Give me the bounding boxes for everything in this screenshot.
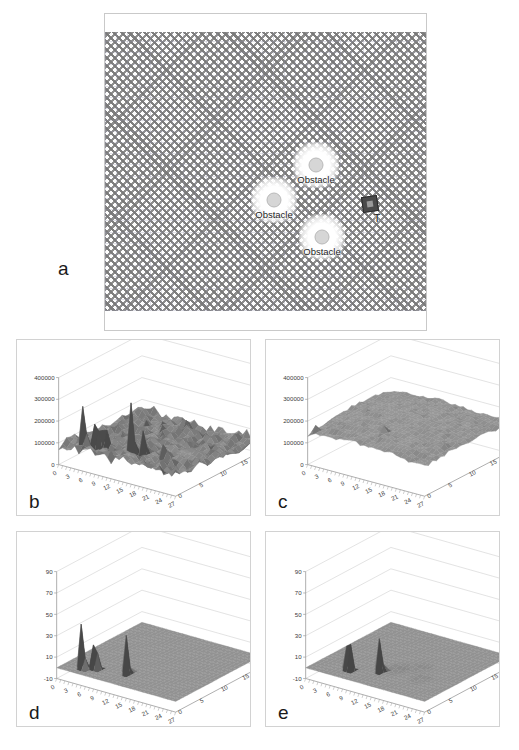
svg-text:100000: 100000 (283, 439, 304, 446)
svg-text:6: 6 (76, 690, 83, 698)
svg-text:9: 9 (89, 694, 96, 702)
svg-text:12: 12 (102, 482, 112, 492)
svg-text:50: 50 (295, 611, 302, 618)
panel-b-svg: 0100000200000300000400000036912151821242… (17, 340, 250, 515)
target-inner-glyph (367, 201, 374, 208)
svg-text:9: 9 (339, 479, 346, 487)
svg-text:27: 27 (416, 499, 426, 509)
svg-text:400000: 400000 (283, 374, 304, 381)
herringbone-texture (105, 32, 426, 311)
obstacle-label: Obstacle (297, 174, 335, 185)
svg-text:30: 30 (295, 632, 302, 639)
svg-text:0: 0 (300, 469, 307, 477)
svg-text:15: 15 (114, 700, 124, 710)
panel-d-svg: -101030507090036912151821242705101520 (17, 532, 250, 726)
svg-text:300000: 300000 (34, 396, 55, 403)
svg-text:90: 90 (295, 568, 302, 575)
svg-text:30: 30 (46, 632, 53, 639)
panel-c-surface-plot: 0100000200000300000400000036912151821242… (265, 339, 500, 516)
obstacle-marker[interactable] (309, 158, 324, 173)
svg-text:400000: 400000 (34, 374, 55, 381)
obstacle-label: Obstacle (255, 209, 293, 220)
svg-text:200000: 200000 (283, 417, 304, 424)
svg-text:100000: 100000 (34, 439, 55, 446)
obstacle-marker[interactable] (267, 193, 282, 208)
svg-text:9: 9 (338, 694, 345, 702)
svg-text:70: 70 (46, 589, 53, 596)
svg-text:27: 27 (167, 499, 177, 509)
svg-text:21: 21 (140, 708, 150, 718)
svg-text:27: 27 (416, 715, 426, 725)
target-square-icon[interactable] (361, 195, 379, 213)
panel-c-svg: 0100000200000300000400000036912151821242… (266, 340, 499, 515)
svg-text:15: 15 (364, 485, 374, 495)
panel-b-surface-plot: 0100000200000300000400000036912151821242… (16, 339, 251, 516)
svg-text:-10: -10 (44, 675, 53, 682)
panel-letter-d: d (29, 702, 40, 724)
svg-text:3: 3 (64, 472, 71, 480)
svg-text:6: 6 (77, 476, 84, 484)
svg-text:12: 12 (350, 697, 360, 707)
svg-text:0: 0 (51, 461, 55, 468)
panel-e-svg: -101030507090036912151821242705101520 (266, 532, 499, 726)
svg-text:24: 24 (154, 496, 164, 506)
obstacle-label: Obstacle (303, 246, 341, 257)
svg-text:0: 0 (298, 682, 305, 690)
svg-text:90: 90 (46, 568, 53, 575)
panel-letter-e: e (278, 702, 289, 724)
svg-text:21: 21 (141, 492, 151, 502)
svg-text:21: 21 (389, 708, 399, 718)
svg-text:18: 18 (128, 489, 138, 499)
svg-text:50: 50 (46, 611, 53, 618)
svg-text:24: 24 (403, 496, 413, 506)
panel-a-map: Obstacle Obstacle Obstacle T (104, 13, 427, 331)
figure-root: Obstacle Obstacle Obstacle T a 010000020… (0, 0, 519, 750)
svg-text:12: 12 (351, 482, 361, 492)
svg-text:0: 0 (300, 461, 304, 468)
svg-text:18: 18 (377, 489, 387, 499)
svg-text:24: 24 (154, 712, 164, 722)
svg-text:18: 18 (376, 704, 386, 714)
svg-text:70: 70 (295, 589, 302, 596)
svg-text:27: 27 (167, 715, 177, 725)
svg-text:10: 10 (295, 653, 302, 660)
svg-text:0: 0 (49, 682, 56, 690)
panel-a-field: Obstacle Obstacle Obstacle T (105, 32, 426, 311)
svg-text:18: 18 (127, 704, 137, 714)
svg-text:12: 12 (101, 697, 111, 707)
svg-text:3: 3 (313, 472, 320, 480)
svg-text:6: 6 (325, 690, 332, 698)
target-label: T (374, 212, 381, 224)
svg-text:-10: -10 (293, 675, 302, 682)
svg-text:3: 3 (312, 686, 319, 694)
svg-text:21: 21 (390, 492, 400, 502)
panel-letter-b: b (29, 491, 40, 513)
svg-text:24: 24 (403, 712, 413, 722)
panel-letter-a: a (58, 258, 69, 280)
svg-text:3: 3 (63, 686, 70, 694)
svg-text:15: 15 (115, 485, 125, 495)
svg-text:6: 6 (326, 476, 333, 484)
svg-text:200000: 200000 (34, 417, 55, 424)
svg-text:0: 0 (51, 469, 58, 477)
svg-text:300000: 300000 (283, 396, 304, 403)
svg-text:9: 9 (90, 479, 97, 487)
svg-text:15: 15 (363, 700, 373, 710)
panel-e-surface-plot: -101030507090036912151821242705101520 e (265, 531, 500, 727)
obstacle-marker[interactable] (315, 230, 330, 245)
panel-letter-c: c (278, 491, 288, 513)
panel-d-surface-plot: -101030507090036912151821242705101520 d (16, 531, 251, 727)
svg-text:10: 10 (46, 653, 53, 660)
